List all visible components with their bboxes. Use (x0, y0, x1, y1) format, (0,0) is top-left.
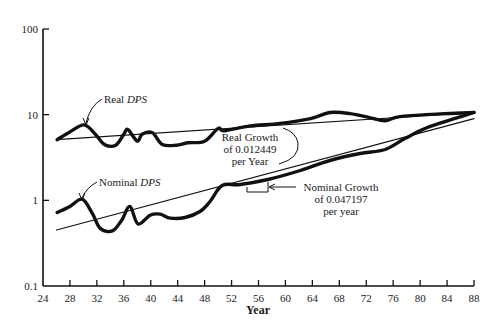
x-tick-label: 48 (199, 292, 211, 304)
real-growth-line-3: per Year (232, 155, 269, 167)
nominal-growth-line-3: per year (323, 205, 359, 217)
real-growth-line-2: of 0.012449 (223, 143, 277, 155)
x-tick-label: 88 (469, 292, 481, 304)
nominal-growth-line-1: Nominal Growth (304, 181, 379, 193)
x-tick-label: 40 (145, 292, 157, 304)
x-tick-label: 80 (415, 292, 427, 304)
x-tick-label: 68 (334, 292, 346, 304)
x-tick-label: 32 (91, 292, 102, 304)
x-tick-label: 28 (64, 292, 76, 304)
y-tick-label: 10 (27, 109, 39, 121)
real-dps-label: Real DPS (104, 93, 148, 105)
x-tick-label: 52 (226, 292, 237, 304)
y-tick-label: 1 (33, 194, 39, 206)
x-tick-label: 60 (280, 292, 292, 304)
nominal-growth-line-2: of 0.047197 (314, 193, 368, 205)
x-tick-label: 24 (38, 292, 50, 304)
real-growth-line-1: Real Growth (222, 131, 279, 143)
x-tick-label: 36 (118, 292, 130, 304)
nominal-dps-label: Nominal DPS (99, 176, 161, 188)
y-tick-label: 0.1 (24, 280, 38, 292)
dps-chart: 24283236404448525660646872768084880.1110… (0, 0, 502, 336)
x-tick-label: 64 (307, 292, 319, 304)
x-tick-label: 84 (442, 292, 454, 304)
real-growth-bracket (279, 128, 298, 164)
y-tick-label: 100 (22, 23, 39, 35)
x-tick-label: 72 (361, 292, 372, 304)
x-axis-label: Year (246, 303, 271, 317)
x-tick-label: 44 (172, 292, 184, 304)
x-tick-label: 76 (388, 292, 400, 304)
